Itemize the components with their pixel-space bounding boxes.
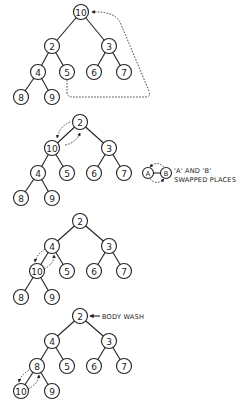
svg-text:9: 9 <box>49 93 55 103</box>
tree-node: 10 <box>30 264 45 279</box>
svg-text:6: 6 <box>91 362 97 372</box>
legend-text-line-1: 'A' AND 'B' <box>174 167 211 175</box>
svg-text:7: 7 <box>121 362 127 372</box>
svg-text:5: 5 <box>64 267 70 277</box>
svg-text:4: 4 <box>49 337 55 347</box>
tree-node: 2 <box>73 115 88 130</box>
tree-node: 9 <box>45 290 60 305</box>
edges <box>21 122 124 198</box>
tree-node: 10 <box>74 5 89 20</box>
svg-text:10: 10 <box>46 144 58 154</box>
tree-node: 9 <box>45 90 60 105</box>
tree-step-2: 2 10 3 4 5 6 7 8 9 <box>14 115 132 206</box>
svg-text:7: 7 <box>121 68 127 78</box>
svg-text:8: 8 <box>18 293 24 303</box>
tree-node: 7 <box>117 65 132 80</box>
tree-node: 4 <box>45 239 60 254</box>
swap-arrow-icon <box>65 133 80 145</box>
svg-text:B: B <box>164 170 168 178</box>
svg-text:4: 4 <box>49 242 55 252</box>
svg-text:5: 5 <box>64 68 70 78</box>
svg-text:4: 4 <box>35 68 41 78</box>
svg-text:8: 8 <box>34 362 40 372</box>
tree-node: 2 <box>73 214 88 229</box>
tree-node: 2 <box>73 309 88 324</box>
body-wash-callout: BODY WASH <box>90 313 144 321</box>
svg-text:10: 10 <box>15 387 27 397</box>
svg-text:5: 5 <box>64 169 70 179</box>
swap-arrow-icon <box>150 179 164 183</box>
tree-node: 7 <box>117 359 132 374</box>
tree-node: 10 <box>45 141 60 156</box>
tree-step-4: 2 4 3 8 5 6 7 10 9 BODY WASH <box>14 309 145 399</box>
tree-node: 10 <box>14 384 29 399</box>
swap-arrow-icon <box>57 122 70 138</box>
svg-text:2: 2 <box>77 118 83 128</box>
tree-node: 9 <box>45 384 60 399</box>
svg-text:6: 6 <box>91 169 97 179</box>
tree-node: 6 <box>87 264 102 279</box>
tree-node: 2 <box>45 39 60 54</box>
tree-node: 6 <box>87 166 102 181</box>
tree-node: 5 <box>60 65 75 80</box>
svg-text:10: 10 <box>75 8 87 18</box>
svg-text:3: 3 <box>106 144 112 154</box>
svg-text:2: 2 <box>77 217 83 227</box>
tree-step-1: 10 2 3 4 5 6 7 8 9 <box>14 5 150 105</box>
svg-text:3: 3 <box>106 337 112 347</box>
legend-node-b: B <box>161 168 172 179</box>
svg-text:10: 10 <box>31 267 43 277</box>
tree-node: 6 <box>87 65 102 80</box>
svg-text:6: 6 <box>91 267 97 277</box>
svg-text:A: A <box>146 170 151 178</box>
edges <box>21 316 124 391</box>
callout-text: BODY WASH <box>102 313 144 321</box>
tree-node: 4 <box>45 334 60 349</box>
tree-node: 3 <box>102 334 117 349</box>
svg-text:2: 2 <box>49 42 55 52</box>
svg-text:3: 3 <box>106 242 112 252</box>
tree-node: 5 <box>60 166 75 181</box>
tree-node: 8 <box>14 90 29 105</box>
svg-text:2: 2 <box>77 312 83 322</box>
tree-node: 8 <box>30 359 45 374</box>
svg-text:8: 8 <box>18 93 24 103</box>
tree-node: 7 <box>117 166 132 181</box>
tree-node: 7 <box>117 264 132 279</box>
tree-node: 3 <box>102 39 117 54</box>
svg-text:6: 6 <box>91 68 97 78</box>
svg-text:9: 9 <box>49 293 55 303</box>
tree-node: 5 <box>60 264 75 279</box>
legend-text-line-2: SWAPPED PLACES <box>174 176 236 184</box>
svg-text:7: 7 <box>121 169 127 179</box>
swap-legend: A B 'A' AND 'B' SWAPPED PLACES <box>143 164 237 185</box>
svg-text:9: 9 <box>49 194 55 204</box>
tree-node: 3 <box>102 141 117 156</box>
tree-node: 9 <box>45 191 60 206</box>
edges <box>21 221 124 297</box>
svg-text:8: 8 <box>18 194 24 204</box>
svg-text:9: 9 <box>49 387 55 397</box>
svg-text:7: 7 <box>121 267 127 277</box>
tree-step-3: 2 4 3 10 5 6 7 8 9 <box>14 214 132 305</box>
legend-node-a: A <box>143 168 154 179</box>
tree-node: 6 <box>87 359 102 374</box>
move-to-root-arrow-icon <box>67 12 150 97</box>
edges <box>21 12 124 97</box>
svg-text:3: 3 <box>106 42 112 52</box>
svg-text:4: 4 <box>35 169 41 179</box>
tree-node: 8 <box>14 290 29 305</box>
tree-node: 4 <box>31 166 46 181</box>
swap-arrow-icon <box>150 164 164 168</box>
tree-node: 5 <box>60 359 75 374</box>
heap-diagram: 10 2 3 4 5 6 7 8 9 2 10 3 4 5 6 7 8 9 <box>0 0 241 418</box>
tree-node: 8 <box>14 191 29 206</box>
svg-text:5: 5 <box>64 362 70 372</box>
tree-node: 3 <box>102 239 117 254</box>
tree-node: 4 <box>31 65 46 80</box>
